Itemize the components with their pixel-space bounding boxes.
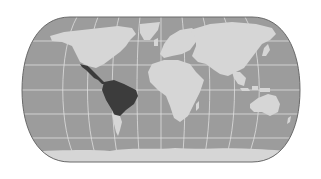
world-map — [0, 0, 321, 179]
